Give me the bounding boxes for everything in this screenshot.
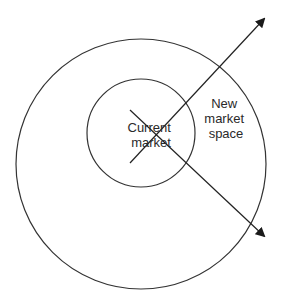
market-space-diagram: Current market New market space [0,0,282,303]
outer-circle [16,39,266,289]
current-market-label: Current market [128,120,175,150]
new-market-space-label: New market space [204,96,247,141]
